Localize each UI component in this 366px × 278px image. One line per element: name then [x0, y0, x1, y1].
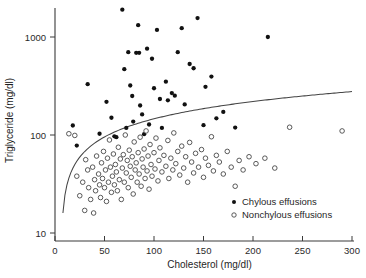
data-point [221, 172, 226, 177]
data-point [74, 174, 79, 179]
data-point [93, 188, 98, 193]
x-tick-label: 100 [146, 245, 162, 256]
data-point [287, 125, 292, 130]
data-point [247, 154, 252, 159]
data-point [214, 153, 219, 158]
data-point [272, 166, 277, 171]
y-tick-label: 100 [30, 130, 46, 141]
x-tick-label: 250 [295, 245, 311, 256]
data-point [128, 83, 132, 87]
data-point [150, 174, 155, 179]
data-point [160, 170, 165, 175]
data-point [229, 165, 234, 170]
data-point [225, 149, 230, 154]
data-point [233, 125, 237, 129]
data-point [148, 142, 153, 147]
data-point [162, 153, 167, 158]
data-point [180, 26, 184, 30]
data-point [110, 174, 115, 179]
data-point [183, 154, 188, 159]
x-tick-label: 50 [99, 245, 110, 256]
data-point [86, 82, 90, 86]
x-axis-ticks: 050100150200250300 [52, 236, 360, 256]
y-axis-title: Triglyceride (mg/dl) [4, 78, 15, 163]
data-point [97, 132, 101, 136]
data-point [128, 164, 133, 169]
data-point [83, 157, 88, 162]
data-point [103, 168, 108, 173]
data-point [146, 154, 151, 159]
x-tick-label: 0 [52, 245, 57, 256]
data-point [209, 134, 214, 139]
data-point [209, 74, 213, 78]
data-point [96, 172, 101, 177]
data-point [127, 148, 132, 153]
data-point [132, 140, 137, 145]
data-point [237, 158, 242, 163]
data-point [206, 163, 211, 168]
x-tick-label: 300 [344, 245, 360, 256]
x-axis-title: Cholesterol (mg/dl) [167, 259, 251, 270]
data-point [126, 185, 131, 190]
data-point [153, 167, 158, 172]
legend-label: Nonchylous effusions [242, 209, 332, 220]
data-point [166, 138, 171, 143]
data-point [179, 144, 184, 149]
data-point [203, 85, 207, 89]
data-point [147, 187, 152, 192]
data-point [173, 94, 177, 98]
data-point [139, 184, 144, 189]
series-chylous-effusions [71, 8, 270, 148]
data-point [155, 28, 159, 32]
data-point [106, 180, 111, 185]
data-point [136, 23, 140, 27]
data-point [137, 51, 141, 55]
data-point [177, 173, 182, 178]
data-point [100, 176, 105, 181]
data-point [75, 143, 79, 147]
data-point [203, 156, 208, 161]
data-point [130, 94, 134, 98]
data-point [109, 190, 114, 195]
data-point [129, 175, 134, 180]
data-point [108, 165, 113, 170]
data-point [104, 199, 109, 204]
data-point [201, 175, 206, 180]
data-point [214, 116, 218, 120]
data-point [123, 133, 128, 138]
data-point [187, 140, 192, 145]
data-point [122, 180, 127, 185]
data-point [142, 147, 147, 152]
data-point [183, 102, 187, 106]
data-point [169, 156, 174, 161]
data-point [134, 161, 139, 166]
data-point [199, 147, 204, 152]
data-point [191, 171, 196, 176]
data-point [125, 158, 130, 163]
legend-label: Chylous effusions [242, 196, 317, 207]
data-point [90, 165, 95, 170]
data-point [112, 183, 117, 188]
legend-marker-chylous [232, 200, 236, 204]
data-point [98, 195, 103, 200]
data-point [176, 50, 180, 54]
data-point [201, 123, 205, 127]
data-point [193, 151, 198, 156]
data-point [158, 97, 162, 101]
data-point [138, 103, 142, 107]
data-point [156, 179, 161, 184]
legend: Chylous effusionsNonchylous effusions [232, 196, 333, 220]
data-point [140, 157, 145, 162]
data-point [136, 150, 141, 155]
data-point [97, 183, 102, 188]
data-point [196, 165, 201, 170]
data-point [266, 35, 270, 39]
data-point [111, 152, 116, 157]
data-point [217, 160, 222, 165]
data-point [124, 126, 128, 130]
boundary-curve-path [63, 92, 352, 213]
data-point [157, 158, 162, 163]
data-point [137, 172, 142, 177]
data-point [73, 133, 78, 138]
data-point [131, 192, 136, 197]
